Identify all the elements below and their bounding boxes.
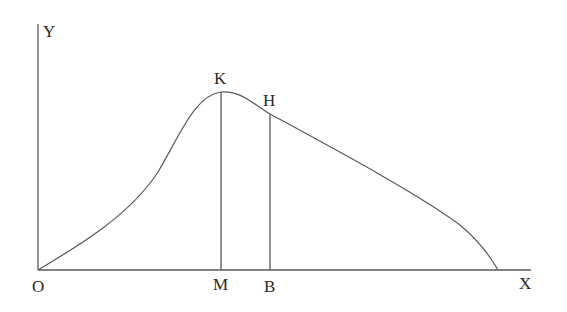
label-b: B <box>264 277 275 296</box>
label-origin: O <box>32 277 44 296</box>
label-k: K <box>214 69 227 88</box>
label-h: H <box>263 91 275 110</box>
label-m: M <box>213 275 228 294</box>
curve-diagram: Y K H O M B X <box>0 0 567 312</box>
curve <box>38 92 498 270</box>
label-y-axis: Y <box>43 22 55 41</box>
label-x-axis: X <box>519 274 531 293</box>
